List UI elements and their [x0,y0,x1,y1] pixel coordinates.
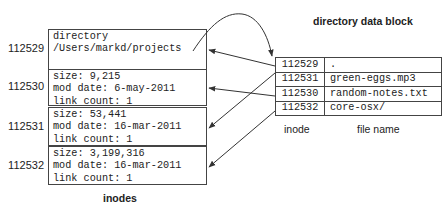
link-arrow [209,50,275,66]
link-arrow [209,88,275,96]
connector-arrows [0,0,448,205]
curved-arrow [193,14,272,56]
